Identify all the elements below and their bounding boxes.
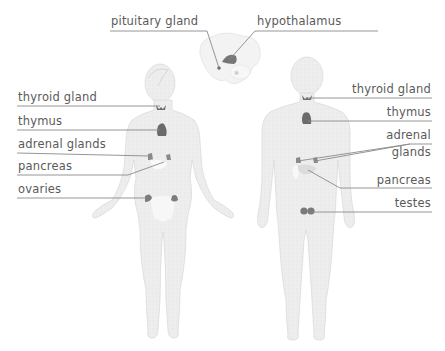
male-head <box>291 57 323 95</box>
label-female-ovaries: ovaries <box>18 183 61 196</box>
label-pituitary-gland: pituitary gland <box>111 15 198 28</box>
label-hypothalamus: hypothalamus <box>257 15 341 28</box>
label-male-testes: testes <box>395 197 431 210</box>
female-head <box>145 64 175 102</box>
label-female-pancreas: pancreas <box>18 160 72 173</box>
male-torso <box>258 93 355 340</box>
label-male-adrenal: adrenal <box>386 129 431 142</box>
label-male-glands: glands <box>392 146 431 159</box>
svg-text:✻: ✻ <box>234 69 239 76</box>
endocrine-system-diagram: ✻ pituitary gland <box>0 0 445 351</box>
male-body <box>258 57 355 340</box>
label-female-adrenal-glands: adrenal glands <box>18 138 106 151</box>
female-body <box>92 64 233 338</box>
label-female-thymus: thymus <box>18 115 62 128</box>
label-female-thyroid-gland: thyroid gland <box>18 91 97 104</box>
male-testis-left <box>300 207 307 214</box>
label-male-pancreas: pancreas <box>377 174 431 187</box>
label-male-thymus: thymus <box>387 106 431 119</box>
male-testis-right <box>307 207 314 214</box>
label-male-thyroid-gland: thyroid gland <box>352 83 431 96</box>
